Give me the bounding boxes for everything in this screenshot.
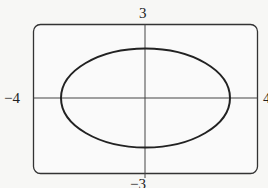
graph-window [0,0,268,188]
y-max-label: 3 [139,6,147,21]
x-min-label: −4 [4,91,20,106]
y-min-label: −3 [130,177,146,188]
x-max-label: 4 [263,91,268,106]
